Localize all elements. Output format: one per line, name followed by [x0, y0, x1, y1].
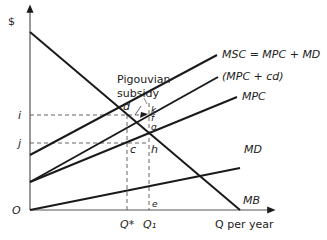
point-c-label: c [130, 143, 136, 156]
mb-label: MB [243, 194, 260, 207]
msc-label: MSC = MPC + MD [222, 48, 320, 61]
pigouvian-subsidy-diagram: $ O Q per year MSC = MPC + MD (MPC + cd)… [0, 0, 327, 240]
y-axis-label: $ [8, 15, 15, 28]
point-h-label: h [151, 143, 158, 156]
y-tick-j: j [16, 137, 22, 150]
annotation-line1: Pigouvian [117, 73, 170, 86]
point-d-label: d [123, 100, 131, 113]
mpc-cd-label: (MPC + cd) [222, 70, 284, 83]
x-tick-q-star: Q* [120, 218, 135, 231]
point-e-label: e [152, 199, 158, 209]
point-g-label: g [151, 122, 157, 132]
y-tick-i: i [18, 109, 21, 122]
subsidy-arrow [135, 106, 141, 115]
md-curve [30, 168, 240, 210]
x-tick-q1: Q₁ [143, 218, 156, 231]
origin-label: O [12, 204, 21, 217]
md-label: MD [244, 143, 262, 156]
annotation-line2: subsidy [117, 87, 159, 100]
mpc-label: MPC [242, 90, 266, 103]
x-axis-label: Q per year [215, 218, 274, 231]
